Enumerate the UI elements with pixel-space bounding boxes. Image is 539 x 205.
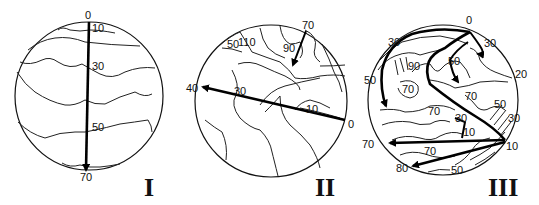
- panel-iii-label-70-center: 70: [465, 90, 477, 102]
- panel-iii-label-0: 0: [466, 14, 472, 26]
- panel-iii-label-70-mid: 70: [428, 105, 440, 117]
- panel-iii-label-10-source: 10: [506, 140, 518, 152]
- panel-iii-label-50-center: 50: [448, 55, 460, 67]
- panel-ii-label-30: 30: [234, 85, 246, 97]
- panel-iii-label-80: 80: [396, 162, 408, 174]
- panel-ii-main-flow-arrow: [203, 87, 345, 120]
- panel-iii-label-90: 90: [408, 60, 420, 72]
- panel-iii-label-50-bottom: 50: [451, 164, 463, 176]
- panel-iii: 0 30 30 50 90 50 20 70 70 70 50 30 30 10…: [362, 14, 527, 202]
- panel-i-flow-arrow: [86, 22, 89, 170]
- panel-ii-label-10: 10: [306, 103, 318, 115]
- panel-iii-label-30-top-right: 30: [484, 37, 496, 49]
- panel-iii-label-20: 20: [515, 68, 527, 80]
- panel-i-roman-label: I: [144, 173, 154, 202]
- panel-ii-label-110: 110: [238, 36, 256, 48]
- panel-iii-roman-label: III: [488, 173, 518, 202]
- panel-iii-label-70-left: 70: [402, 83, 414, 95]
- panel-ii-roman-label: II: [315, 173, 335, 202]
- panel-ii: 70 50 110 90 40 30 10 0 II: [186, 19, 354, 202]
- panel-ii-label-0: 0: [348, 118, 354, 130]
- contour-diagram-figure: 0 10 30 50 70 I 70 50 110 90: [0, 0, 539, 205]
- panel-ii-label-90: 90: [283, 42, 295, 54]
- panel-iii-label-70-arrowhead: 70: [362, 138, 374, 150]
- panel-i: 0 10 30 50 70 I: [15, 9, 163, 202]
- panel-i-label-0: 0: [85, 9, 91, 21]
- panel-i-label-10: 10: [92, 22, 104, 34]
- panel-i-label-50: 50: [92, 121, 104, 133]
- panel-iii-label-30-top-left: 30: [388, 36, 400, 48]
- panel-iii-label-30-right: 30: [508, 112, 520, 124]
- panel-iii-label-50-left: 50: [364, 74, 376, 86]
- panel-iii-label-50-right: 50: [494, 98, 506, 110]
- panel-iii-label-10-inner: 10: [463, 126, 475, 138]
- panel-iii-label-30-inner: 30: [455, 112, 467, 124]
- panel-iii-arrow-to-70: [390, 140, 505, 143]
- panel-iii-label-70-lower: 70: [424, 145, 436, 157]
- panel-ii-label-40: 40: [186, 82, 198, 94]
- panel-i-label-70: 70: [80, 171, 92, 183]
- panel-iii-contours: [378, 36, 512, 172]
- panel-i-label-30: 30: [92, 60, 104, 72]
- panel-ii-contours: [205, 26, 345, 176]
- panel-ii-label-70: 70: [302, 19, 314, 31]
